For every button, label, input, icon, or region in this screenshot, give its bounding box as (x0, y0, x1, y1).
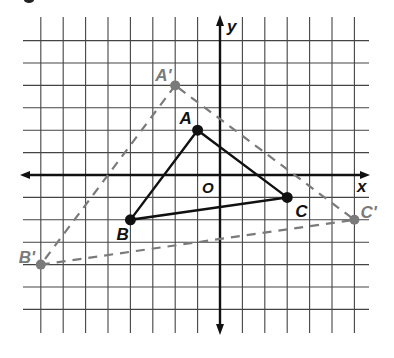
vertex-label: A' (154, 66, 172, 85)
original-triangle: ABC (116, 109, 308, 244)
vertex-point-aprime (170, 80, 180, 90)
x-axis-label: x (356, 177, 368, 196)
x-axis-left-arrow-icon (20, 171, 30, 179)
y-axis-up-arrow-icon (216, 15, 224, 26)
vertex-point-cprime (349, 215, 359, 225)
vertex-label: B (116, 225, 128, 244)
x-axis (20, 171, 370, 179)
vertex-label: C' (360, 203, 377, 222)
y-axis-down-arrow-icon (216, 324, 224, 335)
vertex-point-a (192, 125, 203, 136)
vertex-label: A (179, 109, 192, 128)
cropped-glyph-fragment (24, 0, 34, 3)
y-axis-label: y (226, 17, 238, 36)
vertex-label: C (295, 202, 308, 221)
vertex-point-b (125, 214, 136, 225)
vertex-point-bprime (36, 260, 46, 270)
vertex-label: B' (19, 248, 36, 267)
image-triangle: A'B'C' (19, 66, 378, 269)
coordinate-plane-figure: y x O A'B'C' ABC (0, 0, 394, 358)
origin-label: O (202, 179, 214, 196)
vertex-point-c (282, 192, 293, 203)
